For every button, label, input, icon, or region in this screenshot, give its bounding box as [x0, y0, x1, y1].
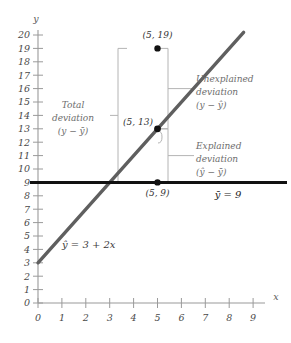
mid-point-brace [158, 131, 162, 143]
x-tick-label: 5 [154, 312, 160, 323]
data-point-5-19 [154, 45, 160, 51]
total-deviation-bracket [110, 48, 127, 182]
total-deviation-line1: Total [62, 100, 85, 110]
chart-svg: 20 19 18 17 16 15 14 13 12 11 10 9 8 7 6… [0, 0, 291, 343]
y-tick-label: 15 [18, 96, 30, 107]
total-deviation-line2: deviation [52, 113, 94, 123]
point-label-mid: (5, 13) [123, 117, 153, 127]
regression-equation-label: ŷ = 3 + 2x [61, 239, 116, 250]
x-tick-label: 6 [178, 312, 184, 323]
regression-deviation-figure: 20 19 18 17 16 15 14 13 12 11 10 9 8 7 6… [0, 0, 291, 343]
explained-deviation-line1: Explained [195, 141, 242, 151]
x-tick-label: 3 [107, 312, 113, 323]
x-tick-label: 4 [130, 312, 137, 323]
unexplained-deviation-line2: deviation [196, 87, 238, 97]
mean-equation-label: ȳ = 9 [214, 189, 242, 200]
y-tick-label: 14 [18, 110, 30, 121]
y-tick-label: 2 [23, 271, 30, 282]
y-tick-label: 1 [24, 284, 30, 295]
y-tick-label: 4 [23, 244, 30, 255]
y-tick-labels: 20 19 18 17 16 15 14 13 12 11 10 9 8 7 6… [17, 29, 31, 308]
y-tick-label: 13 [18, 123, 30, 134]
y-tick-label: 5 [24, 230, 30, 241]
total-deviation-line3: (y − ȳ) [58, 126, 89, 136]
data-point-5-9 [154, 179, 160, 185]
x-tick-labels: 0 1 2 3 4 5 6 7 8 9 [35, 312, 256, 323]
y-tick-label: 7 [24, 204, 31, 215]
y-tick-label: 12 [18, 137, 30, 148]
x-tick-label: 2 [82, 312, 89, 323]
point-label-low: (5, 9) [145, 188, 170, 198]
axis-group [38, 30, 265, 303]
y-tick-label: 11 [18, 150, 30, 161]
y-tick-label: 20 [17, 29, 30, 40]
unexplained-deviation-line3: (y − ŷ) [196, 100, 227, 110]
x-tick-label: 7 [202, 312, 209, 323]
y-tick-label: 17 [18, 70, 31, 81]
y-tick-label: 19 [18, 43, 30, 54]
x-tick-label: 8 [226, 312, 232, 323]
explained-deviation-bracket [160, 129, 194, 183]
x-tick-label: 1 [59, 312, 65, 323]
x-tick-label: 0 [35, 312, 41, 323]
data-point-5-13 [154, 125, 161, 132]
unexplained-deviation-bracket [160, 48, 194, 128]
explained-deviation-annotation: Explained deviation (ŷ − ȳ) [195, 141, 242, 177]
unexplained-deviation-line1: Unexplained [196, 74, 254, 84]
y-tick-label: 9 [24, 177, 30, 188]
explained-deviation-line2: deviation [196, 154, 238, 164]
point-label-high: (5, 19) [143, 30, 173, 40]
y-tick-label: 0 [24, 297, 30, 308]
y-tick-label: 10 [18, 163, 30, 174]
y-tick-label: 6 [24, 217, 30, 228]
explained-deviation-line3: (ŷ − ȳ) [196, 167, 227, 177]
y-tick-label: 16 [18, 83, 30, 94]
x-tick-label: 9 [250, 312, 256, 323]
y-axis-title: y [32, 13, 39, 24]
y-tick-label: 3 [24, 257, 30, 268]
x-axis-title: x [273, 291, 279, 302]
unexplained-deviation-annotation: Unexplained deviation (y − ŷ) [196, 74, 254, 110]
total-deviation-annotation: Total deviation (y − ȳ) [52, 100, 94, 136]
y-tick-label: 8 [24, 190, 30, 201]
y-tick-label: 18 [18, 56, 30, 67]
